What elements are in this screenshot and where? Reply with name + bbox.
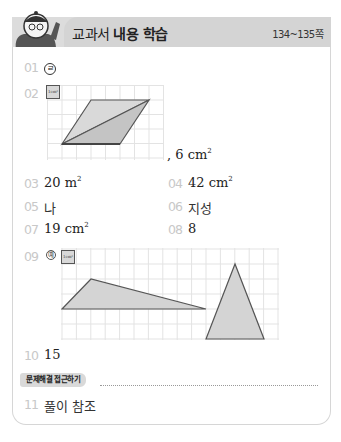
answer-02: , 6 cm2 — [167, 147, 212, 162]
grid-figure-09 — [61, 248, 281, 342]
answer-11: 풀이 참조 — [44, 396, 96, 415]
page-range: 134~135쪽 — [272, 26, 323, 41]
title-bold: 내용 학습 — [113, 26, 167, 42]
section-badge: 문제해결 접근하기 — [20, 373, 86, 387]
answer-01: ㄹ — [44, 59, 56, 75]
question-number: 04 — [168, 176, 182, 191]
page-title: 교과서 내용 학습 — [72, 23, 168, 43]
answer-10: 15 — [44, 347, 61, 362]
question-number: 09 — [24, 249, 38, 264]
answer-03: 20 m2 — [44, 175, 81, 190]
answer-05: 나 — [44, 198, 56, 217]
answer-08: 8 — [188, 221, 196, 236]
question-number: 10 — [24, 348, 38, 363]
title-prefix: 교과서 — [72, 26, 110, 42]
dotted-divider — [100, 385, 318, 386]
answer-04: 42 cm2 — [188, 175, 233, 190]
unit-square-label: 1cm² — [61, 250, 75, 264]
question-number: 05 — [24, 199, 38, 214]
unit-square-label: 1cm² — [46, 85, 60, 99]
question-number: 03 — [24, 176, 38, 191]
circled-answer: ㄹ — [44, 63, 56, 75]
grid-figure-02 — [47, 85, 165, 162]
question-number: 08 — [168, 222, 182, 237]
question-number: 02 — [24, 86, 38, 101]
question-number: 06 — [168, 199, 182, 214]
answer-07: 19 cm2 — [44, 221, 89, 236]
answer-06: 지성 — [188, 198, 212, 217]
question-number: 01 — [24, 60, 38, 75]
mascot-icon — [12, 8, 62, 50]
question-number: 07 — [24, 222, 38, 237]
example-mark: 예 — [46, 250, 56, 260]
question-number: 11 — [24, 397, 38, 412]
